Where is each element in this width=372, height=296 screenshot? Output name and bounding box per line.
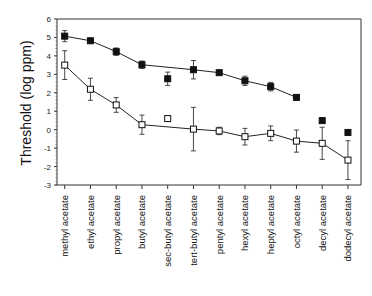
x-category-label: octyl acetate [291,195,302,248]
x-category-label: dodecyl acetate [342,195,353,262]
data-point [190,67,196,73]
data-point [319,140,325,146]
y-tick-label: 5 [47,33,52,42]
y-axis-ticks: 6543210-1-2-3 [44,15,57,190]
y-tick-label: -3 [44,181,52,190]
data-point [139,62,145,68]
y-tick-label: 1 [47,107,52,116]
data-series [62,31,351,180]
data-point [62,33,68,39]
data-point [113,102,119,108]
data-point [242,134,248,140]
y-tick-label: 3 [47,70,52,79]
series-open [62,51,351,180]
data-point [87,38,93,44]
data-point [62,62,68,68]
x-category-label: propyl acetate [111,195,122,255]
data-point [165,116,171,122]
y-tick-label: 6 [47,15,52,24]
y-tick-label: -1 [44,144,52,153]
y-tick-label: 0 [47,126,52,135]
data-point [113,49,119,55]
chart: 6543210-1-2-3 methyl acetateethyl acetat… [0,0,372,296]
y-axis-label: Threshold (log ppm) [18,40,34,165]
series-filled [62,31,351,136]
x-category-label: pentyl acetate [214,195,225,254]
y-tick-label: -2 [44,163,52,172]
data-point [216,70,222,76]
data-point [87,86,93,92]
x-category-label: tert-butyl acetate [188,195,199,266]
y-tick-label: 2 [47,89,52,98]
data-point [165,76,171,82]
x-category-label: heptyl acetate [265,195,276,254]
x-category-label: decyl acetate [317,195,328,251]
x-category-label: methyl acetate [59,195,70,257]
data-point [293,138,299,144]
x-category-label: sec-butyl acetate [162,195,173,267]
data-point [216,128,222,134]
plot-frame [57,19,361,185]
x-category-label: hexyl acetate [239,195,250,251]
data-point [190,126,196,132]
data-point [268,84,274,90]
x-category-label: butyl acetate [136,195,147,249]
x-category-label: ethyl acetate [85,195,96,249]
data-point [345,157,351,163]
data-point [293,94,299,100]
data-point [268,130,274,136]
y-tick-label: 4 [47,52,52,61]
data-point [319,118,325,124]
axes [57,19,361,185]
data-point [242,78,248,84]
data-point [345,129,351,135]
x-axis-ticks: methyl acetateethyl acetatepropyl acetat… [59,185,353,267]
data-point [139,122,145,128]
